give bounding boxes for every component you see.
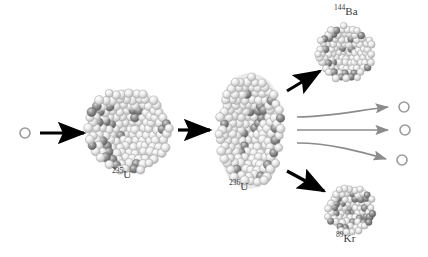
arrow-neutron-3 (297, 143, 386, 159)
label-ba144-element: Ba (345, 5, 358, 17)
label-ba144-mass: 144 (334, 3, 345, 12)
emitted-neutron-2 (400, 125, 410, 135)
nucleus-u236 (215, 73, 285, 189)
emitted-neutron-3 (397, 155, 407, 165)
fission-diagram: 235U 236U 144Ba 89Kr (0, 0, 428, 257)
label-kr89-mass: 89 (336, 230, 344, 239)
label-u235-mass: 235 (112, 166, 123, 175)
arrow-to-ba144 (287, 71, 320, 91)
label-u235-element: U (123, 168, 131, 180)
nucleus-ba144 (315, 22, 375, 82)
emitted-neutron-1 (399, 102, 409, 112)
label-u236: 236U (229, 180, 248, 192)
label-u236-mass: 236 (229, 178, 240, 187)
label-u236-element: U (240, 180, 248, 192)
nucleus-kr89 (324, 185, 375, 236)
arrow-to-kr89 (287, 171, 324, 191)
label-u235: 235U (112, 168, 131, 180)
label-kr89: 89Kr (336, 232, 356, 244)
diagram-canvas (0, 0, 428, 257)
incident-neutron (20, 128, 30, 138)
nucleus-u235 (84, 89, 174, 174)
arrow-neutron-1 (297, 107, 388, 117)
label-kr89-element: Kr (344, 232, 356, 244)
label-ba144: 144Ba (334, 5, 358, 17)
